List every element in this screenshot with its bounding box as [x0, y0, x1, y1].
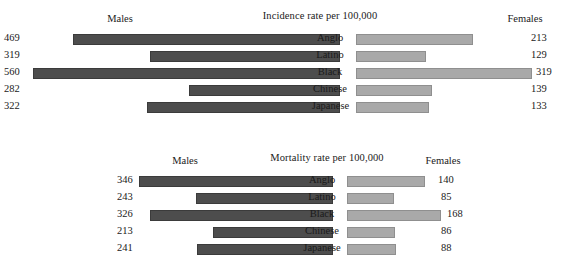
value-female: 88	[441, 242, 475, 253]
chart-title-incidence: Incidence rate per 100,000	[230, 10, 410, 21]
chart-rows-incidence: 469 Anglo 213 319 Latino 129 560 Black 3…	[0, 31, 569, 116]
bar-female	[347, 210, 441, 221]
category-label: Black	[297, 208, 347, 219]
value-male: 469	[4, 32, 34, 43]
bar-female	[347, 244, 396, 255]
chart-row: 243 Latino 85	[0, 190, 569, 207]
value-male: 319	[4, 49, 34, 60]
bar-male	[33, 68, 340, 79]
category-label: Latino	[305, 49, 355, 60]
value-female: 133	[531, 100, 565, 111]
category-label: Japanese	[294, 242, 350, 253]
value-male: 243	[117, 191, 147, 202]
column-header-females-incidence: Females	[490, 13, 560, 24]
bar-female	[356, 85, 432, 96]
chart-row: 346 Anglo 140	[0, 173, 569, 190]
category-label: Anglo	[305, 32, 355, 43]
column-header-males-incidence: Males	[80, 13, 160, 24]
value-female: 129	[531, 49, 565, 60]
chart-mortality: Mortality rate per 100,000 Males Females…	[0, 140, 569, 268]
value-female: 139	[531, 83, 565, 94]
bar-male	[73, 34, 340, 45]
chart-row: 322 Japanese 133	[0, 99, 569, 116]
value-male: 326	[117, 208, 147, 219]
chart-row: 469 Anglo 213	[0, 31, 569, 48]
category-label: Chinese	[305, 83, 355, 94]
value-female: 140	[438, 174, 472, 185]
value-female: 86	[441, 225, 475, 236]
category-label: Anglo	[297, 174, 347, 185]
bar-female	[347, 176, 425, 187]
bar-female	[356, 102, 429, 113]
bar-female	[356, 34, 473, 45]
chart-row: 560 Black 319	[0, 65, 569, 82]
value-female: 85	[441, 191, 475, 202]
chart-row: 319 Latino 129	[0, 48, 569, 65]
value-male: 213	[117, 225, 147, 236]
bar-female	[356, 68, 532, 79]
value-female: 213	[531, 32, 565, 43]
chart-row: 241 Japanese 88	[0, 241, 569, 258]
category-label: Latino	[297, 191, 347, 202]
value-male: 322	[4, 100, 34, 111]
bar-female	[356, 51, 426, 62]
value-female: 168	[447, 208, 481, 219]
column-header-males-mortality: Males	[145, 155, 225, 166]
value-female: 319	[536, 66, 569, 77]
chart-row: 282 Chinese 139	[0, 82, 569, 99]
category-label: Japanese	[303, 100, 358, 111]
chart-title-mortality: Mortality rate per 100,000	[237, 152, 417, 163]
chart-incidence: Incidence rate per 100,000 Males Females…	[0, 0, 569, 140]
value-male: 241	[117, 242, 147, 253]
value-male: 560	[4, 66, 34, 77]
chart-row: 213 Chinese 86	[0, 224, 569, 241]
chart-row: 326 Black 168	[0, 207, 569, 224]
bar-female	[347, 193, 394, 204]
bar-female	[347, 227, 395, 238]
category-label: Black	[305, 66, 355, 77]
column-header-females-mortality: Females	[408, 155, 478, 166]
chart-rows-mortality: 346 Anglo 140 243 Latino 85 326 Black 16…	[0, 173, 569, 258]
category-label: Chinese	[295, 225, 349, 236]
value-male: 282	[4, 83, 34, 94]
